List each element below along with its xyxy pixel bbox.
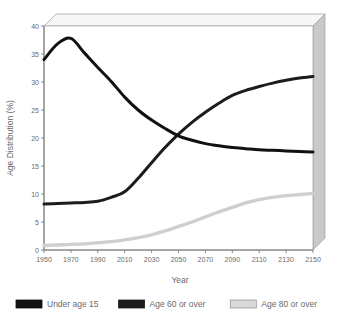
y-tick-label: 30 — [31, 79, 39, 86]
plot-wall-right-face — [313, 14, 325, 250]
x-tick-label: 2030 — [144, 256, 160, 263]
x-tick-label: 2110 — [252, 256, 267, 263]
plot-wall-top-face — [44, 14, 325, 26]
legend-swatch-age-60-or-over — [119, 300, 145, 308]
x-tick-label: 2130 — [278, 256, 294, 263]
x-tick-label: 1950 — [36, 256, 52, 263]
y-axis-title: Age Distribution (%) — [5, 100, 15, 176]
x-tick-label: 2150 — [305, 256, 321, 263]
x-tick-label: 2050 — [171, 256, 187, 263]
age-distribution-line-chart: 0510152025303540 19501970199020102030205… — [0, 0, 341, 325]
plot-area-background — [44, 26, 313, 250]
legend-swatch-under-age-15 — [16, 300, 42, 308]
x-tick-label: 1970 — [63, 256, 79, 263]
y-tick-label: 15 — [31, 163, 39, 170]
x-tick-label: 2070 — [198, 256, 214, 263]
x-tick-label: 1990 — [90, 256, 106, 263]
chart-container: 0510152025303540 19501970199020102030205… — [0, 0, 341, 325]
legend-swatch-age-80-or-over — [230, 300, 256, 308]
y-tick-label: 10 — [31, 191, 39, 198]
y-tick-label: 25 — [31, 107, 39, 114]
y-axis-ticks: 0510152025303540 — [31, 23, 44, 254]
x-tick-label: 2090 — [225, 256, 241, 263]
x-axis-ticks: 1950197019902010203020502070209021102130… — [36, 250, 321, 263]
y-tick-label: 5 — [35, 219, 39, 226]
legend-label-age-80-or-over: Age 80 or over — [261, 299, 317, 309]
y-tick-label: 20 — [31, 135, 39, 142]
chart-legend: Under age 15Age 60 or overAge 80 or over — [16, 299, 317, 309]
x-axis-title: Year — [171, 275, 188, 285]
legend-label-under-age-15: Under age 15 — [47, 299, 99, 309]
x-tick-label: 2010 — [117, 256, 133, 263]
y-tick-label: 40 — [31, 23, 39, 30]
legend-label-age-60-or-over: Age 60 or over — [150, 299, 206, 309]
y-tick-label: 0 — [35, 247, 39, 254]
y-tick-label: 35 — [31, 51, 39, 58]
